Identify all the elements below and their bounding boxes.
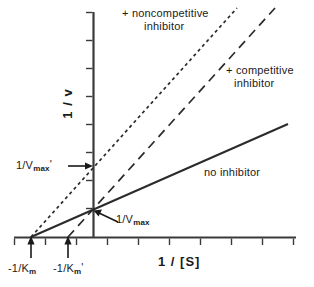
annotation-label-vmax: 1/Vmax [116,213,150,226]
annotation-arrow-km-prime [64,236,71,258]
series-line-no-inhibitor [31,124,288,237]
series-label-competitive: + competitiveinhibitor [226,64,294,90]
annotation-label-km-prime: -1/Km' [53,262,84,275]
annotation-arrow-vmax [94,210,119,222]
lineweaver-burk-plot: + noncompetitiveinhibitor + competitivei… [0,0,314,287]
series-line-noncompetitive [31,8,237,237]
y-axis-ticks [86,13,93,209]
y-axis-label: 1 / v [61,88,74,118]
annotation-label-km: -1/Km [8,262,36,275]
series-label-noncompetitive: + noncompetitiveinhibitor [122,7,209,33]
x-axis-label: 1 / [S] [158,255,200,268]
annotation-arrow-km [27,236,34,258]
annotation-label-vmax-prime: 1/Vmax' [16,159,52,172]
x-axis-ticks [15,239,294,246]
annotation-arrow-vmax-prime [68,162,93,169]
series-line-competitive [68,8,275,237]
series-label-no-inhibitor: no inhibitor [204,166,260,179]
plot-canvas [0,0,314,287]
